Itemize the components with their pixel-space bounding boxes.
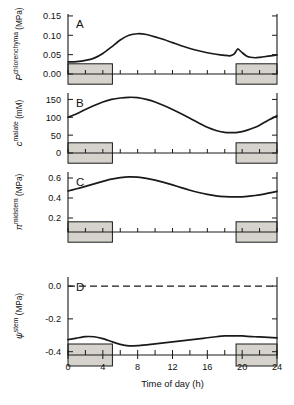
panel-letter-a: A bbox=[76, 18, 84, 30]
y-tick-label: 0.00 bbox=[43, 69, 61, 79]
y-tick-label: 0.2 bbox=[48, 213, 61, 223]
x-tick-label: 0 bbox=[65, 362, 70, 372]
data-curve-a bbox=[68, 34, 277, 62]
y-tick-label: -0.4 bbox=[45, 347, 61, 357]
panel-letter-d: D bbox=[76, 281, 84, 293]
y-axis-title-c: πmidstem (MPa) bbox=[12, 173, 24, 230]
y-tick-label: 0.6 bbox=[48, 173, 61, 183]
diel-physiology-figure: 0.000.050.100.15APchlorenchyma (MPa)0501… bbox=[0, 0, 294, 405]
panel-frame bbox=[68, 277, 277, 355]
x-tick-label: 12 bbox=[167, 362, 177, 372]
data-curve-c bbox=[68, 177, 277, 197]
y-tick-label: 150 bbox=[46, 95, 61, 105]
panel-letter-b: B bbox=[76, 97, 84, 109]
y-tick-label: 100 bbox=[46, 113, 61, 123]
panel-a: 0.000.050.100.15APchlorenchyma (MPa) bbox=[12, 7, 277, 84]
x-tick-label: 8 bbox=[135, 362, 140, 372]
y-axis-title-a: Pchlorenchyma (MPa) bbox=[12, 7, 24, 80]
y-tick-label: 0 bbox=[56, 148, 61, 158]
panel-letter-c: C bbox=[76, 176, 84, 188]
x-tick-label: 16 bbox=[202, 362, 212, 372]
panel-c: 0.20.40.6Cπmidstem (MPa) bbox=[12, 172, 277, 242]
y-axis-title-b: cmalate (mM) bbox=[12, 99, 24, 146]
panel-d: 0.0-0.2-0.4Dψstem (MPa) bbox=[12, 277, 277, 366]
y-tick-label: 0.15 bbox=[43, 11, 61, 21]
y-tick-label: 50 bbox=[51, 131, 61, 141]
y-tick-label: 0.05 bbox=[43, 50, 61, 60]
y-tick-label: 0.0 bbox=[48, 281, 61, 291]
x-tick-label: 24 bbox=[272, 362, 282, 372]
x-tick-label: 4 bbox=[100, 362, 105, 372]
figure-container: 0.000.050.100.15APchlorenchyma (MPa)0501… bbox=[0, 0, 294, 405]
data-curve-b bbox=[68, 97, 277, 132]
panel-b: 050100150Bcmalate (mM) bbox=[12, 93, 277, 163]
x-tick-label: 20 bbox=[237, 362, 247, 372]
y-axis-title-d: ψstem (MPa) bbox=[12, 293, 24, 339]
y-tick-label: -0.2 bbox=[45, 314, 61, 324]
y-tick-label: 0.10 bbox=[43, 31, 61, 41]
x-axis-title: Time of day (h) bbox=[141, 378, 204, 389]
y-tick-label: 0.4 bbox=[48, 193, 61, 203]
